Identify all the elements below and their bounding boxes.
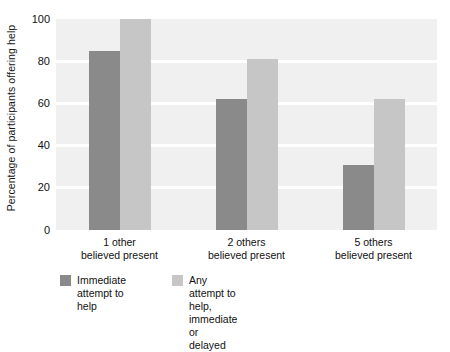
legend-label-line1: Immediate xyxy=(77,274,126,286)
plot-area xyxy=(56,19,437,230)
bar-group-3-series-2 xyxy=(374,99,405,230)
bar-group-1-series-2 xyxy=(120,19,151,230)
y-axis-title: Percentage of participants offering help xyxy=(0,0,22,235)
y-tick-label-20: 20 xyxy=(4,182,50,193)
bar-group-3-series-1 xyxy=(343,165,374,230)
x-tick-label-line1: 5 others xyxy=(355,236,393,248)
legend-label-line1: Any attempt to help, xyxy=(189,274,236,312)
x-tick-label-group-3: 5 othersbelieved present xyxy=(309,236,439,262)
y-tick-label-100: 100 xyxy=(4,14,50,25)
bar-group-2-series-2 xyxy=(247,59,278,230)
bar-group-2-series-1 xyxy=(216,99,247,230)
x-tick-label-line1: 2 others xyxy=(228,236,266,248)
bar-group-1-series-1 xyxy=(89,51,120,230)
legend-swatch-icon-1 xyxy=(60,275,71,286)
legend-item-2[interactable]: Any attempt to help,immediate or delayed xyxy=(172,274,237,352)
y-tick-label-80: 80 xyxy=(4,56,50,67)
x-tick-label-line2: believed present xyxy=(309,249,439,262)
x-tick-label-line2: believed present xyxy=(182,249,312,262)
x-tick-label-line2: believed present xyxy=(55,249,185,262)
y-tick-label-0: 0 xyxy=(4,225,50,236)
legend-label-line2: immediate or delayed xyxy=(189,313,237,351)
x-tick-label-group-2: 2 othersbelieved present xyxy=(182,236,312,262)
x-tick-label-group-1: 1 otherbelieved present xyxy=(55,236,185,262)
y-tick-label-60: 60 xyxy=(4,98,50,109)
legend-label-line2: attempt to help xyxy=(77,287,124,312)
y-tick-label-40: 40 xyxy=(4,140,50,151)
x-tick-label-line1: 1 other xyxy=(103,236,136,248)
legend-swatch-icon-2 xyxy=(172,275,183,286)
legend-label-1: Immediateattempt to help xyxy=(77,274,126,313)
legend-item-1[interactable]: Immediateattempt to help xyxy=(60,274,126,313)
legend-label-2: Any attempt to help,immediate or delayed xyxy=(189,274,237,352)
